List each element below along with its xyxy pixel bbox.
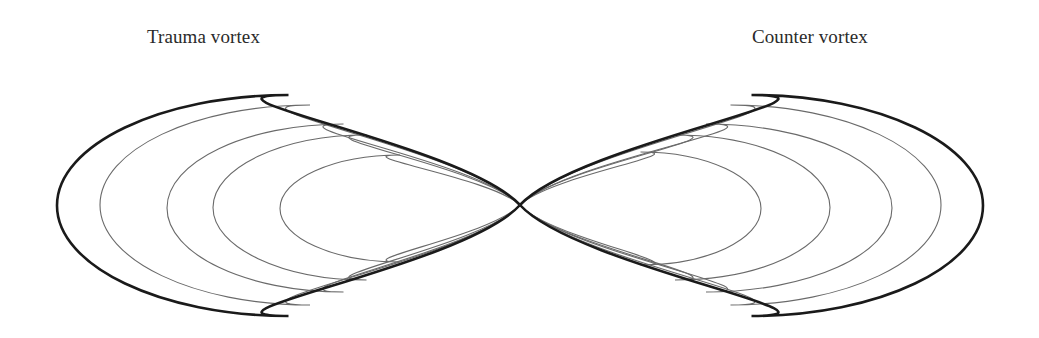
- inner-loop: [520, 152, 761, 265]
- counter-vortex-loops: [520, 95, 983, 316]
- inner-loop: [167, 124, 520, 292]
- outer-loop: [520, 95, 983, 316]
- inner-loop: [520, 124, 892, 292]
- inner-loop: [520, 135, 830, 280]
- trauma-vortex-loops: [57, 95, 520, 316]
- inner-loop: [280, 155, 520, 262]
- figure-eight-vortex-diagram: [0, 0, 1039, 338]
